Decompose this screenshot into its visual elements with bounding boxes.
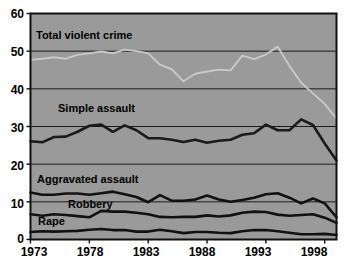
y-tick-label: 40	[0, 84, 24, 96]
x-tick-label: 1983	[124, 246, 168, 258]
series-label-total-violent-crime: Total violent crime	[36, 30, 132, 41]
x-tick-label: 1988	[180, 246, 224, 258]
chart-container: 6050403020100 197319781983198819931998 T…	[0, 0, 345, 270]
x-tick-label: 1998	[292, 246, 336, 258]
y-tick-label: 0	[0, 233, 24, 245]
y-tick-label: 30	[0, 122, 24, 134]
series-label-simple-assault: Simple assault	[58, 103, 135, 114]
x-tick-label: 1993	[236, 246, 280, 258]
y-tick-label: 10	[0, 198, 24, 210]
series-label-aggravated-assault: Aggravated assault	[37, 174, 138, 185]
y-tick-label: 20	[0, 160, 24, 172]
y-tick-label: 60	[0, 8, 24, 20]
x-tick-label: 1973	[12, 246, 56, 258]
series-label-robbery: Robbery	[68, 199, 113, 210]
series-label-rape: Rape	[38, 216, 65, 227]
y-tick-label: 50	[0, 46, 24, 58]
x-tick-label: 1978	[68, 246, 112, 258]
